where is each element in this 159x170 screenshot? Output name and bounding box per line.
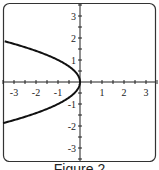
x-tick-label: 1 (100, 87, 105, 98)
x-tick-label: -1 (54, 87, 62, 98)
y-tick-label: 3 (71, 11, 76, 22)
x-tick-label: 3 (144, 87, 149, 98)
y-tick-label: -2 (68, 121, 76, 132)
x-tick-label: -3 (10, 87, 18, 98)
y-tick-label: -3 (68, 143, 76, 154)
y-tick-label: -1 (68, 99, 76, 110)
figure-caption: Figure 2 (0, 161, 159, 170)
y-tick-label: 1 (71, 55, 76, 66)
x-tick-label: -2 (32, 87, 40, 98)
y-tick-label: 2 (71, 33, 76, 44)
x-tick-label: 2 (122, 87, 127, 98)
graph-plot: -3-2-1123-3-2-1123 (0, 0, 159, 162)
